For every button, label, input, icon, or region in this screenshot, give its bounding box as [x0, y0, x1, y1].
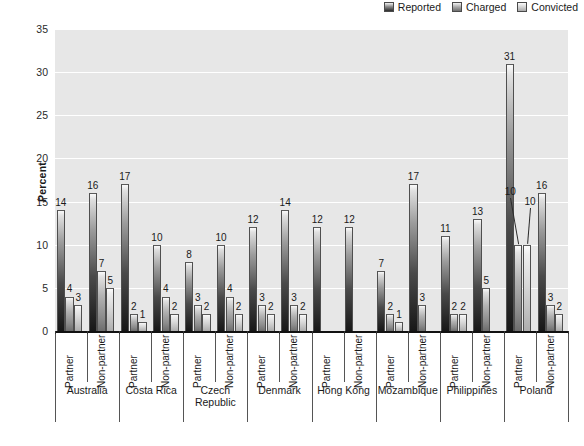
bar-reported	[313, 227, 321, 331]
bar-charged	[482, 288, 490, 331]
bar-value-label: 17	[404, 172, 422, 182]
legend-label-charged: Charged	[466, 2, 506, 13]
bar-value-label: 2	[166, 302, 184, 312]
y-axis-tick-label: 35	[22, 23, 48, 35]
x-axis-sublabel-non-partner: Non-partner	[97, 335, 107, 388]
bar-convicted	[299, 314, 307, 331]
group-separator	[376, 334, 377, 422]
bar-value-label: 12	[308, 215, 326, 225]
group-separator	[312, 334, 313, 422]
bar-reported	[345, 227, 353, 331]
bar-convicted	[202, 314, 210, 331]
group-separator	[247, 334, 248, 422]
bar-chart: Reported Charged Convicted Percent 05101…	[0, 0, 584, 446]
y-axis-tick-label: 25	[22, 109, 48, 121]
bar-value-label: 5	[477, 276, 495, 286]
legend-item-reported: Reported	[384, 2, 441, 13]
bar-value-label: 31	[501, 52, 519, 62]
bar-value-label: 4	[221, 284, 239, 294]
label-separator	[408, 334, 409, 382]
bar-value-label: 14	[52, 198, 70, 208]
label-separator	[151, 334, 152, 382]
bar-value-label: 2	[230, 302, 248, 312]
x-axis-sublabel-non-partner: Non-partner	[354, 335, 364, 388]
x-axis-sublabel-non-partner: Non-partner	[289, 335, 299, 388]
label-separator	[279, 334, 280, 382]
bar-value-label: 2	[454, 302, 472, 312]
y-axis-tick-label: 0	[22, 325, 48, 337]
bar-value-label: 2	[262, 302, 280, 312]
group-separator	[55, 334, 56, 422]
bar-value-label: 16	[84, 181, 102, 191]
legend-swatch-icon-reported	[384, 2, 394, 12]
group-separator	[183, 334, 184, 422]
bar-value-label: 3	[69, 293, 87, 303]
x-axis-sublabel-non-partner: Non-partner	[225, 335, 235, 388]
bar-value-label: 1	[390, 310, 408, 320]
legend-item-charged: Charged	[452, 2, 506, 13]
bar-reported	[409, 184, 417, 331]
y-axis-tick-label: 15	[22, 196, 48, 208]
bar-reported	[538, 193, 546, 331]
bar-convicted	[170, 314, 178, 331]
x-axis-group-label: Poland	[498, 384, 574, 396]
group-separator	[119, 334, 120, 422]
bar-convicted	[267, 314, 275, 331]
y-axis-tick-label: 20	[22, 152, 48, 164]
legend-label-reported: Reported	[398, 2, 441, 13]
label-separator	[536, 334, 537, 382]
bar-value-label: 2	[550, 302, 568, 312]
legend-item-convicted: Convicted	[517, 2, 578, 13]
bar-value-label: 5	[101, 276, 119, 286]
bar-convicted	[395, 322, 403, 331]
bar-convicted	[459, 314, 467, 331]
label-separator	[215, 334, 216, 382]
bar-value-label: 14	[276, 198, 294, 208]
bar-value-label: 11	[436, 224, 454, 234]
label-separator	[87, 334, 88, 382]
bar-value-label: 13	[469, 207, 487, 217]
bar-charged	[450, 314, 458, 331]
legend-label-convicted: Convicted	[531, 2, 578, 13]
y-axis-tick-label: 5	[22, 282, 48, 294]
bar-convicted	[235, 314, 243, 331]
bar-charged	[514, 245, 522, 331]
x-axis-sublabel-non-partner: Non-partner	[161, 335, 171, 388]
bar-value-label: 1	[133, 310, 151, 320]
label-separator	[344, 334, 345, 382]
bar-value-label: 10	[212, 233, 230, 243]
y-axis-tick-label: 10	[22, 239, 48, 251]
bar-value-label: 7	[372, 259, 390, 269]
legend-swatch-icon-charged	[452, 2, 462, 12]
x-axis-sublabel-non-partner: Non-partner	[546, 335, 556, 388]
bar-value-label: 7	[93, 259, 111, 269]
bar-reported	[57, 210, 65, 331]
bar-convicted	[74, 305, 82, 331]
bar-reported	[281, 210, 289, 331]
group-separator	[568, 334, 569, 422]
bar-value-label: 8	[180, 250, 198, 260]
bar-value-label: 3	[413, 293, 431, 303]
bar-value-label: 10	[521, 197, 539, 207]
bar-convicted	[555, 314, 563, 331]
x-axis-sublabel-non-partner: Non-partner	[418, 335, 428, 388]
y-axis-tick-label: 30	[22, 66, 48, 78]
bar-value-label: 12	[340, 215, 358, 225]
bar-reported	[249, 227, 257, 331]
bar-reported	[441, 236, 449, 331]
bar-value-label: 2	[294, 302, 312, 312]
label-separator	[472, 334, 473, 382]
bar-charged	[418, 305, 426, 331]
legend-swatch-icon-convicted	[517, 2, 527, 12]
bar-value-label: 4	[157, 284, 175, 294]
group-separator	[440, 334, 441, 422]
bar-convicted	[138, 322, 146, 331]
bar-value-label: 12	[244, 215, 262, 225]
x-axis-sublabel-non-partner: Non-partner	[482, 335, 492, 388]
bar-value-label: 2	[198, 302, 216, 312]
bar-value-label: 10	[501, 187, 519, 197]
bar-convicted	[523, 245, 531, 331]
group-separator	[504, 334, 505, 422]
bar-convicted	[106, 288, 114, 331]
x-axis-label-band: PartnerNon-partnerAustraliaPartnerNon-pa…	[55, 332, 568, 422]
